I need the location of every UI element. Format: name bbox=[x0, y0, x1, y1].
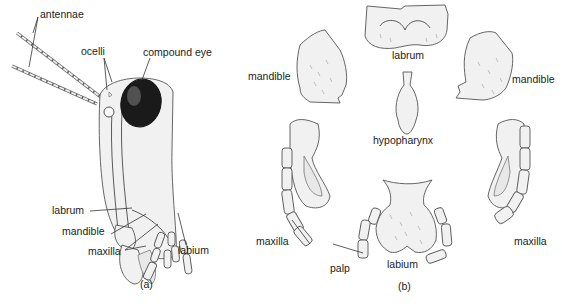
label-labrum-a: labrum bbox=[52, 204, 84, 216]
labium-drawing bbox=[376, 180, 436, 253]
hypopharynx-drawing bbox=[396, 72, 418, 134]
label-labium-b: labium bbox=[387, 258, 418, 270]
caption-a: (a) bbox=[140, 278, 153, 290]
caption-b: (b) bbox=[398, 280, 411, 292]
label-compound-eye: compound eye bbox=[143, 46, 212, 58]
label-mandible-left: mandible bbox=[248, 70, 291, 82]
insect-mouthparts-figure: antennae ocelli compound eye labrum mand… bbox=[0, 0, 562, 304]
label-ocelli: ocelli bbox=[81, 45, 105, 57]
label-labium-a: labium bbox=[178, 244, 209, 256]
panel-b-mouthparts: labrum mandible mandible hypopharynx max… bbox=[248, 5, 555, 292]
label-mandible-right: mandible bbox=[512, 73, 555, 85]
label-maxilla-left: maxilla bbox=[256, 235, 289, 247]
mandible-right-drawing bbox=[456, 32, 513, 100]
label-maxilla-right: maxilla bbox=[514, 235, 547, 247]
panel-a-head-lateral: antennae ocelli compound eye labrum mand… bbox=[12, 8, 212, 290]
label-palp: palp bbox=[330, 262, 350, 274]
label-mandible-a: mandible bbox=[62, 225, 105, 237]
ocellus-drawing bbox=[104, 107, 114, 117]
label-hypopharynx: hypopharynx bbox=[373, 134, 434, 146]
label-antennae: antennae bbox=[40, 8, 84, 20]
mandible-left-drawing bbox=[297, 30, 347, 103]
maxilla-left-drawing bbox=[290, 120, 330, 208]
antennae-drawing bbox=[12, 33, 102, 104]
label-labrum-b: labrum bbox=[392, 49, 424, 61]
label-maxilla-a: maxilla bbox=[88, 245, 121, 257]
